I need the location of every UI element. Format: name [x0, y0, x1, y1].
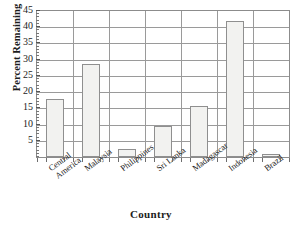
gridline-vertical [217, 11, 218, 157]
x-axis-tick-mark [181, 158, 182, 162]
y-axis-minor-tick-mark [36, 62, 39, 63]
x-axis-title: Country [0, 208, 302, 220]
gridline-vertical [73, 11, 74, 157]
y-axis-minor-tick-mark [36, 94, 39, 95]
y-axis-tick-mark [36, 75, 40, 76]
gridline-horizontal [37, 27, 289, 28]
x-axis-tick-mark [73, 158, 74, 162]
y-axis-minor-tick-mark [36, 81, 39, 82]
y-axis-minor-tick-mark [36, 46, 39, 47]
x-axis-tick-mark [154, 158, 155, 162]
y-axis-minor-tick-mark [36, 130, 39, 131]
y-axis-minor-tick-mark [36, 111, 39, 112]
y-axis-minor-tick-mark [36, 104, 39, 105]
y-axis-minor-tick-mark [36, 29, 39, 30]
y-axis-minor-tick-mark [36, 72, 39, 73]
y-axis-tick-labels: 51015202530354045 [0, 10, 33, 158]
y-axis-minor-tick-mark [36, 150, 39, 151]
y-axis-tick-label: 30 [1, 54, 33, 64]
y-axis-tick-label: 10 [1, 119, 33, 129]
gridline-horizontal [37, 76, 289, 77]
gridline-vertical [253, 11, 254, 157]
gridline-horizontal [37, 43, 289, 44]
y-axis-minor-tick-mark [36, 49, 39, 50]
x-axis-tick-mark [100, 158, 101, 162]
bar [46, 99, 65, 157]
bar [190, 106, 209, 157]
y-axis-minor-tick-mark [36, 23, 39, 24]
y-axis-minor-tick-mark [36, 20, 39, 21]
x-axis-tick-mark [82, 158, 83, 162]
y-axis-minor-tick-mark [36, 133, 39, 134]
y-axis-minor-tick-mark [36, 65, 39, 66]
y-axis-minor-tick-mark [36, 85, 39, 86]
x-axis-tick-mark [244, 158, 245, 162]
x-axis-tick-mark [46, 158, 47, 162]
bar-chart: Percent Remaining 51015202530354045 Cent… [0, 0, 302, 230]
x-axis-category-labels: CentralAmericaMalaysiaPhilippinesSri Lan… [0, 158, 302, 208]
x-axis-tick-mark [136, 158, 137, 162]
y-axis-minor-tick-mark [36, 127, 39, 128]
x-axis-tick-mark [64, 158, 65, 162]
y-axis-minor-tick-mark [36, 55, 39, 56]
bar [82, 64, 101, 157]
y-axis-minor-tick-mark [36, 78, 39, 79]
y-axis-tick-label: 40 [1, 21, 33, 31]
y-axis-tick-mark [36, 124, 40, 125]
y-axis-minor-tick-mark [36, 33, 39, 34]
y-axis-minor-tick-mark [36, 156, 39, 157]
y-axis-minor-tick-mark [36, 153, 39, 154]
bar [226, 21, 245, 157]
y-axis-minor-tick-mark [36, 13, 39, 14]
y-axis-minor-tick-mark [36, 52, 39, 53]
y-axis-tick-mark [36, 140, 40, 141]
x-axis-tick-mark [190, 158, 191, 162]
y-axis-minor-tick-mark [36, 39, 39, 40]
y-axis-minor-tick-mark [36, 68, 39, 69]
y-axis-tick-label: 45 [1, 5, 33, 15]
y-axis-tick-mark [36, 42, 40, 43]
y-axis-minor-tick-mark [36, 146, 39, 147]
y-axis-minor-tick-mark [36, 143, 39, 144]
y-axis-minor-tick-mark [36, 137, 39, 138]
y-axis-tick-label: 25 [1, 70, 33, 80]
y-axis-tick-mark [36, 26, 40, 27]
x-axis-tick-mark [118, 158, 119, 162]
x-axis-tick-mark [145, 158, 146, 162]
x-axis-tick-mark [289, 158, 290, 162]
y-axis-minor-tick-mark [36, 117, 39, 118]
y-axis-tick-label: 20 [1, 86, 33, 96]
plot-area [36, 10, 290, 158]
x-axis-tick-mark [172, 158, 173, 162]
gridline-vertical [181, 11, 182, 157]
y-axis-minor-tick-mark [36, 36, 39, 37]
y-axis-tick-mark [36, 107, 40, 108]
gridline-horizontal [37, 108, 289, 109]
x-axis-tick-mark [280, 158, 281, 162]
y-axis-minor-tick-mark [36, 114, 39, 115]
x-axis-tick-mark [217, 158, 218, 162]
y-axis-minor-tick-mark [36, 120, 39, 121]
gridline-vertical [109, 11, 110, 157]
x-axis-tick-mark [253, 158, 254, 162]
gridline-horizontal [37, 60, 289, 61]
x-axis-tick-mark [37, 158, 38, 162]
y-axis-tick-label: 35 [1, 37, 33, 47]
y-axis-minor-tick-mark [36, 101, 39, 102]
y-axis-tick-mark [36, 59, 40, 60]
y-axis-minor-tick-mark [36, 16, 39, 17]
gridline-vertical [145, 11, 146, 157]
y-axis-tick-mark [36, 91, 40, 92]
y-axis-minor-tick-mark [36, 98, 39, 99]
x-axis-tick-mark [109, 158, 110, 162]
y-axis-tick-label: 5 [1, 135, 33, 145]
x-axis-tick-mark [262, 158, 263, 162]
y-axis-tick-mark [36, 10, 40, 11]
x-axis-tick-mark [226, 158, 227, 162]
y-axis-tick-label: 15 [1, 102, 33, 112]
x-axis-tick-mark [208, 158, 209, 162]
gridline-horizontal [37, 92, 289, 93]
y-axis-minor-tick-mark [36, 88, 39, 89]
